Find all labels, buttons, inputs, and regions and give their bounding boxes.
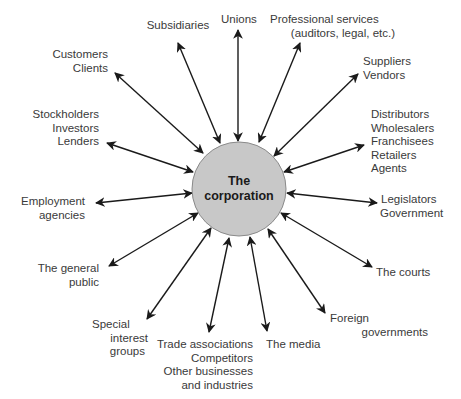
arrow-employment-agencies [96,193,192,203]
arrow-media [250,237,267,331]
label-suppliers: Suppliers Vendors [363,55,411,82]
arrow-foreign-governments [268,229,325,313]
label-customers: Customers Clients [20,48,108,75]
arrow-customers [115,73,203,153]
label-professional-services: Professional services (auditors, legal, … [270,13,395,40]
arrow-professional-services [259,43,300,142]
center-line-2: corporation [193,189,285,204]
arrow-courts [281,213,372,267]
label-unions: Unions [221,13,257,27]
arrow-distributors [284,145,364,172]
arrow-special-interest [147,228,211,319]
label-legislators: Legislators Government [380,193,443,220]
label-foreign-governments: Foreign governments [330,312,428,339]
label-general-public: The general public [20,262,99,289]
label-special-interest: Special interest groups [92,318,148,359]
center-line-1: The [193,174,285,189]
label-trade-associations: Trade associations Competitors Other bus… [150,338,253,392]
arrow-general-public [109,213,198,266]
arrow-trade-associations [209,238,229,332]
label-courts: The courts [376,266,430,280]
arrow-legislators [287,193,377,203]
corporation-label: The corporation [193,174,285,204]
label-subsidiaries: Subsidiaries [128,19,228,33]
label-stockholders: Stockholders Investors Lenders [10,108,99,149]
arrow-stockholders [107,143,193,172]
label-distributors: Distributors Wholesalers Franchisees Ret… [371,108,434,176]
arrow-suppliers [274,74,358,156]
label-employment-agencies: Employment agencies [10,195,85,222]
arrow-subsidiaries [178,43,220,143]
label-media: The media [266,338,320,352]
